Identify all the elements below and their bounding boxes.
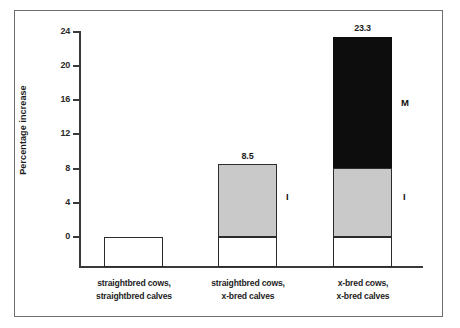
category-label-3-line-2: x-bred calves: [303, 290, 423, 303]
category-label-2: straightbred cows, x-bred calves: [188, 277, 308, 302]
category-label-3: x-bred cows, x-bred calves: [303, 277, 423, 302]
category-label-2-line-1: straightbred cows,: [188, 277, 308, 290]
y-tick-labels: 24 20 16 12 8 4 0: [42, 0, 70, 300]
y-tick-mark-8: [73, 168, 79, 170]
plot-area: 24 20 16 12 8 4 0 Percentage increase 8.…: [0, 0, 460, 328]
y-tick-label-0: 0: [46, 231, 70, 241]
bar-2-individual-legend-label: I: [286, 191, 289, 202]
y-axis-title: Percentage increase: [18, 60, 28, 200]
y-tick-mark-16: [73, 99, 79, 101]
y-tick-mark-0: [73, 236, 79, 238]
category-label-1-line-2: straightbred calves: [74, 290, 194, 303]
y-tick-label-24: 24: [46, 26, 70, 36]
category-label-3-line-1: x-bred cows,: [303, 277, 423, 290]
bar-3-individual-segment[interactable]: [333, 168, 392, 237]
category-label-1: straightbred cows, straightbred calves: [74, 277, 194, 302]
bar-3-maternal-legend-label: M: [401, 97, 409, 108]
y-axis-line: [79, 31, 81, 267]
bar-1-base-segment[interactable]: [104, 237, 163, 267]
y-tick-label-4: 4: [46, 197, 70, 207]
y-tick-label-12: 12: [46, 128, 70, 138]
bar-3-individual-legend-label: I: [403, 191, 406, 202]
bar-2-base-segment[interactable]: [218, 237, 277, 267]
bar-3-value-label: 23.3: [323, 23, 402, 33]
bar-3-base-segment[interactable]: [333, 237, 392, 267]
y-tick-mark-4: [73, 202, 79, 204]
y-tick-label-20: 20: [46, 60, 70, 70]
y-tick-label-8: 8: [46, 163, 70, 173]
y-tick-mark-20: [73, 65, 79, 67]
y-tick-mark-24: [73, 31, 79, 33]
bar-3-maternal-segment[interactable]: [333, 37, 392, 168]
y-tick-label-16: 16: [46, 94, 70, 104]
bar-2-individual-segment[interactable]: [218, 164, 277, 237]
y-tick-mark-12: [73, 133, 79, 135]
chart-figure: 24 20 16 12 8 4 0 Percentage increase 8.…: [0, 0, 460, 328]
bar-2-value-label: 8.5: [208, 151, 287, 161]
category-label-2-line-2: x-bred calves: [188, 290, 308, 303]
category-label-1-line-1: straightbred cows,: [74, 277, 194, 290]
